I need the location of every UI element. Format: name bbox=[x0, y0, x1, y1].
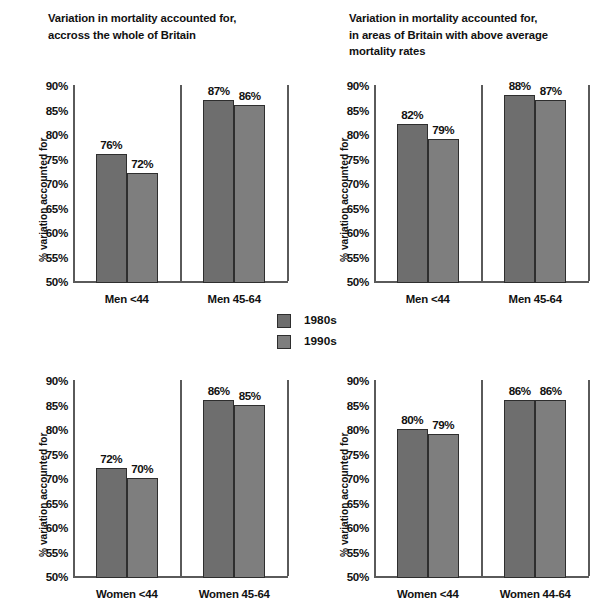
y-axis-ticks: 90%85%80%75%70%65%60%55%50% bbox=[328, 380, 369, 576]
y-axis-tick-label: 75% bbox=[347, 447, 369, 460]
y-axis-tick-label: 70% bbox=[347, 177, 369, 190]
x-axis-category-label: Men <44 bbox=[105, 293, 149, 305]
chart-panel-bottom-left: % variation accounted for90%85%80%75%70%… bbox=[0, 352, 301, 611]
y-axis-tick-label: 50% bbox=[347, 570, 369, 583]
y-axis-tick-label: 70% bbox=[347, 472, 369, 485]
legend-swatch-1980s-icon bbox=[277, 314, 291, 328]
x-axis-category-label: Women <44 bbox=[397, 588, 459, 600]
y-axis-tick-label: 70% bbox=[46, 177, 68, 190]
y-axis-tick-label: 55% bbox=[347, 250, 369, 263]
y-axis-tick-label: 90% bbox=[347, 374, 369, 387]
x-axis-category-label: Women <44 bbox=[96, 588, 158, 600]
y-axis-tick-label: 75% bbox=[46, 152, 68, 165]
y-axis-line bbox=[73, 380, 75, 578]
bar-bottom-right-0-1990s bbox=[428, 434, 459, 578]
bar-top-right-0-1990s bbox=[428, 139, 459, 283]
y-axis-ticks: 90%85%80%75%70%65%60%55%50% bbox=[27, 85, 68, 281]
y-axis-tick-label: 85% bbox=[46, 398, 68, 411]
y-axis-tick-label: 70% bbox=[46, 472, 68, 485]
bar-bottom-left-0-1990s bbox=[127, 478, 158, 578]
bar-value-label: 85% bbox=[230, 389, 269, 402]
group-separator-line bbox=[481, 85, 483, 281]
y-axis-tick-label: 75% bbox=[46, 447, 68, 460]
y-axis-line bbox=[374, 380, 376, 578]
legend-item-1990s: 1990s bbox=[277, 333, 397, 354]
plot-area: % variation accounted for90%85%80%75%70%… bbox=[0, 352, 301, 611]
y-axis-tick-label: 80% bbox=[46, 128, 68, 141]
y-axis-tick-label: 80% bbox=[347, 128, 369, 141]
y-axis-tick-label: 85% bbox=[46, 103, 68, 116]
y-axis-tick-label: 65% bbox=[347, 201, 369, 214]
y-axis-tick-label: 60% bbox=[347, 521, 369, 534]
legend-label-1990s: 1990s bbox=[304, 334, 337, 348]
plot-area: % variation accounted for90%85%80%75%70%… bbox=[301, 352, 602, 611]
bar-top-right-1-1990s bbox=[535, 100, 566, 283]
y-axis-line bbox=[374, 85, 376, 283]
chart-title: Variation in mortality accounted for, in… bbox=[349, 10, 594, 60]
chart-title: Variation in mortality accounted for, ac… bbox=[48, 10, 293, 43]
bar-value-label: 76% bbox=[92, 138, 131, 151]
y-axis-tick-label: 55% bbox=[46, 545, 68, 558]
plot-right-border bbox=[287, 85, 289, 281]
bar-bottom-left-1-1990s bbox=[234, 405, 265, 579]
plot-right-border bbox=[588, 380, 590, 576]
y-axis-tick-label: 50% bbox=[347, 275, 369, 288]
plot-area: Variation in mortality accounted for, ac… bbox=[0, 0, 301, 310]
legend-label-1980s: 1980s bbox=[304, 313, 337, 327]
bar-bottom-right-0-1980s bbox=[397, 429, 428, 578]
bar-value-label: 86% bbox=[230, 89, 269, 102]
bar-bottom-right-1-1990s bbox=[535, 400, 566, 578]
y-axis-tick-label: 55% bbox=[347, 545, 369, 558]
bar-value-label: 87% bbox=[531, 84, 570, 97]
group-separator-line bbox=[481, 380, 483, 576]
bar-bottom-right-1-1980s bbox=[504, 400, 535, 578]
legend-swatch-1990s-icon bbox=[277, 335, 291, 349]
chart-panel-bottom-right: % variation accounted for90%85%80%75%70%… bbox=[301, 352, 602, 611]
bar-bottom-left-0-1980s bbox=[96, 468, 127, 578]
group-separator-line bbox=[180, 85, 182, 281]
x-axis-category-label: Men 45-64 bbox=[208, 293, 261, 305]
y-axis-tick-label: 85% bbox=[347, 103, 369, 116]
y-axis-tick-label: 75% bbox=[347, 152, 369, 165]
chart-legend: 1980s 1990s bbox=[277, 312, 397, 354]
bar-value-label: 79% bbox=[424, 418, 463, 431]
y-axis-tick-label: 50% bbox=[46, 275, 68, 288]
bar-top-left-0-1990s bbox=[127, 173, 158, 283]
bar-top-right-0-1980s bbox=[397, 124, 428, 283]
chart-panel-top-left: Variation in mortality accounted for, ac… bbox=[0, 0, 301, 310]
chart-panel-top-right: Variation in mortality accounted for, in… bbox=[301, 0, 602, 310]
bar-top-right-1-1980s bbox=[504, 95, 535, 283]
bar-value-label: 70% bbox=[123, 462, 162, 475]
legend-item-1980s: 1980s bbox=[277, 312, 397, 333]
bar-value-label: 86% bbox=[531, 384, 570, 397]
plot-right-border bbox=[588, 85, 590, 281]
y-axis-tick-label: 90% bbox=[347, 79, 369, 92]
bar-top-left-1-1990s bbox=[234, 105, 265, 283]
plot-area: Variation in mortality accounted for, in… bbox=[301, 0, 602, 310]
y-axis-tick-label: 80% bbox=[46, 423, 68, 436]
y-axis-tick-label: 65% bbox=[46, 201, 68, 214]
bar-top-left-0-1980s bbox=[96, 154, 127, 283]
group-separator-line bbox=[180, 380, 182, 576]
x-axis-category-label: Men 45-64 bbox=[509, 293, 562, 305]
y-axis-tick-label: 65% bbox=[347, 496, 369, 509]
y-axis-tick-label: 90% bbox=[46, 374, 68, 387]
y-axis-ticks: 90%85%80%75%70%65%60%55%50% bbox=[27, 380, 68, 576]
plot-right-border bbox=[287, 380, 289, 576]
y-axis-tick-label: 80% bbox=[347, 423, 369, 436]
x-axis-category-label: Men <44 bbox=[406, 293, 450, 305]
y-axis-tick-label: 90% bbox=[46, 79, 68, 92]
bar-value-label: 82% bbox=[393, 108, 432, 121]
y-axis-tick-label: 55% bbox=[46, 250, 68, 263]
bar-top-left-1-1980s bbox=[203, 100, 234, 283]
y-axis-ticks: 90%85%80%75%70%65%60%55%50% bbox=[328, 85, 369, 281]
y-axis-tick-label: 65% bbox=[46, 496, 68, 509]
x-axis-category-label: Women 45-64 bbox=[199, 588, 270, 600]
x-axis-category-label: Women 44-64 bbox=[500, 588, 571, 600]
y-axis-line bbox=[73, 85, 75, 283]
y-axis-tick-label: 60% bbox=[46, 521, 68, 534]
y-axis-tick-label: 50% bbox=[46, 570, 68, 583]
y-axis-tick-label: 85% bbox=[347, 398, 369, 411]
y-axis-tick-label: 60% bbox=[46, 226, 68, 239]
bar-value-label: 79% bbox=[424, 123, 463, 136]
